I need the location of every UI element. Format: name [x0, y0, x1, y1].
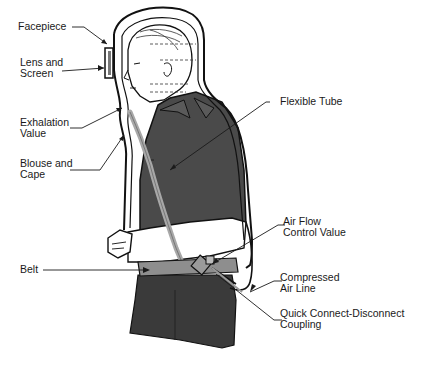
head-shape	[124, 25, 196, 102]
label-quick-connect-coupling: Quick Connect-Disconnect Coupling	[280, 308, 404, 330]
label-compressed-air-line: Compressed Air Line	[280, 272, 340, 294]
respirator-diagram: Facepiece Lens and Screen Exhalation Val…	[0, 0, 422, 366]
label-flexible-tube: Flexible Tube	[280, 96, 342, 107]
label-blouse-and-cape: Blouse and Cape	[20, 158, 73, 180]
label-lens-and-screen: Lens and Screen	[20, 57, 63, 79]
label-facepiece: Facepiece	[18, 21, 66, 32]
label-belt: Belt	[20, 264, 38, 275]
label-air-flow-control-value: Air Flow Control Value	[283, 216, 346, 238]
lens-window	[105, 48, 113, 78]
label-exhalation-value: Exhalation Value	[20, 117, 69, 139]
trousers-shape	[130, 275, 236, 348]
